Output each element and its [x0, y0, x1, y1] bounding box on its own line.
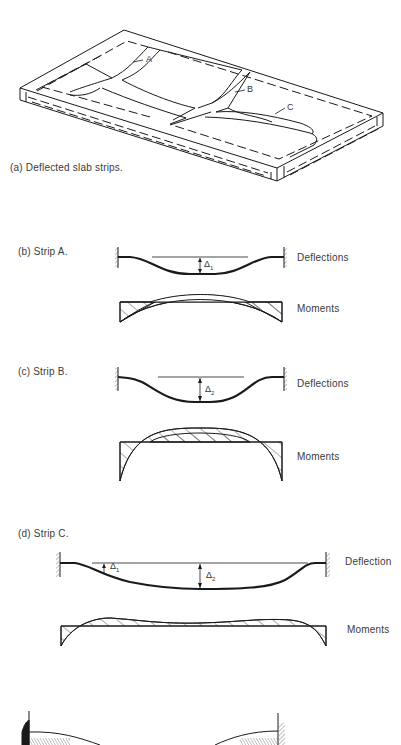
- strip-label-c: C: [287, 102, 294, 112]
- bottom-partial-drawing: [22, 711, 285, 745]
- strip-b-deflection: [115, 367, 287, 402]
- delta-1-symbol-b: Δ1: [204, 259, 213, 271]
- delta-subscript: 1: [116, 567, 119, 573]
- deflections-label-c: Deflections: [297, 378, 349, 389]
- strip-a-moment-diagram: [120, 295, 282, 323]
- caption-b: (b) Strip A.: [18, 246, 68, 257]
- slab-isometric-drawing: [20, 30, 383, 181]
- strip-b-moment-diagram: [120, 428, 282, 481]
- deflections-label-b: Deflections: [297, 252, 349, 263]
- delta-subscript: 2: [212, 576, 215, 582]
- deflection-label-d: Deflection: [345, 556, 391, 567]
- strip-label-a: A: [146, 54, 152, 64]
- delta-2-symbol-c: Δ2: [205, 384, 214, 396]
- strip-a-deflection: [115, 247, 287, 274]
- strip-c-moment-diagram: [61, 618, 326, 646]
- moments-label-c: Moments: [297, 451, 340, 462]
- delta-subscript: 2: [211, 390, 214, 396]
- delta-2-symbol-d: Δ2: [206, 570, 215, 582]
- strip-c-deflection: [56, 552, 330, 589]
- strip-label-b: B: [247, 84, 253, 94]
- caption-c: (c) Strip B.: [18, 366, 68, 377]
- caption-d: (d) Strip C.: [18, 528, 69, 539]
- moments-label-d: Moments: [347, 624, 390, 635]
- caption-a: (a) Deflected slab strips.: [10, 162, 123, 173]
- delta-1-symbol-d: Δ1: [110, 561, 119, 573]
- delta-subscript: 1: [210, 265, 213, 271]
- moments-label-b: Moments: [297, 303, 340, 314]
- slab-top-face: [20, 30, 383, 168]
